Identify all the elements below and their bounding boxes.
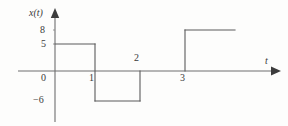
x-axis: [18, 67, 281, 76]
y-tick-label-minus-6: −6: [33, 95, 44, 105]
y-tick-label-0: 0: [41, 73, 46, 83]
y-axis: [51, 8, 59, 122]
x-axis-title: t: [265, 56, 268, 66]
x-tick-label-2: 2: [134, 53, 139, 63]
x-tick-label-3: 3: [180, 73, 185, 83]
y-tick-label-5: 5: [41, 39, 46, 49]
y-tick-label-8: 8: [40, 25, 45, 35]
x-tick-label-1: 1: [89, 73, 94, 83]
signal-waveform: [55, 30, 235, 101]
y-axis-title: x(t): [29, 8, 43, 18]
signal-plot-figure: x(t) 8 5 0 −6 1 2 3 t: [0, 0, 288, 126]
plot-canvas: [0, 0, 288, 126]
